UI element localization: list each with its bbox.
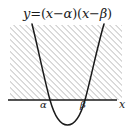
- equation-label: y=(x−α)(x−β): [0, 6, 135, 21]
- equation-close-paren-2: ): [107, 6, 112, 21]
- equation-minus-2: −: [89, 6, 100, 21]
- parabola-figure: y=(x−α)(x−β) α β x: [0, 0, 135, 135]
- equation-x-1: x: [46, 6, 53, 21]
- root-label-beta: β: [80, 99, 86, 110]
- equation-x-2: x: [82, 6, 89, 21]
- equation-beta: β: [100, 6, 107, 21]
- hatched-region: [10, 25, 122, 100]
- equation-equals: =: [30, 6, 41, 21]
- root-label-alpha: α: [40, 99, 47, 110]
- x-axis-label: x: [119, 98, 125, 111]
- equation-minus-1: −: [53, 6, 64, 21]
- equation-alpha: α: [64, 6, 73, 21]
